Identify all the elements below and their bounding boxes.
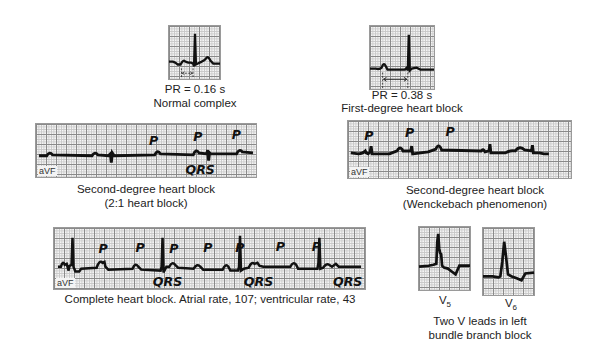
- ecg-trace: [483, 228, 534, 295]
- ecg-strip-second-degree-2to1: P P P QRS aVF: [35, 123, 257, 178]
- p-wave-marker: P: [276, 239, 286, 254]
- ecg-trace: [370, 26, 434, 89]
- caption-second-degree-2to1-line2: (2:1 heart block): [66, 196, 226, 210]
- lead-letter: V: [505, 297, 513, 309]
- ecg-strip-v6: [482, 227, 535, 296]
- lead-subscript: 5: [447, 300, 451, 309]
- ecg-trace: [169, 26, 220, 79]
- p-wave-marker: P: [445, 124, 455, 139]
- ecg-strip-v5: [418, 226, 471, 291]
- p-wave-marker: P: [405, 125, 415, 140]
- caption-lbbb-line1: Two V leads in left: [420, 314, 540, 328]
- ecg-trace: P P P P P P P QRS QRS QRS: [54, 228, 365, 289]
- p-wave-marker: P: [203, 240, 213, 255]
- pr-label-first-degree: PR = 0.38 s: [352, 88, 452, 102]
- pr-label-normal: PR = 0.16 s: [145, 82, 245, 96]
- ecg-trace: [419, 227, 470, 290]
- caption-wenckebach-line1: Second-degree heart block: [390, 183, 560, 197]
- p-wave-marker: P: [149, 133, 158, 148]
- p-wave-marker: P: [193, 129, 202, 144]
- lead-letter: V: [439, 294, 447, 306]
- caption-second-degree-2to1-line1: Second-degree heart block: [66, 182, 226, 196]
- caption-wenckebach-line2: (Wenckebach phenomenon): [390, 197, 560, 211]
- qrs-marker: QRS: [153, 274, 182, 289]
- p-wave-marker: P: [235, 240, 245, 255]
- caption-normal-complex: Normal complex: [135, 96, 255, 110]
- qrs-marker: QRS: [244, 274, 273, 289]
- p-wave-marker: P: [169, 241, 179, 256]
- lead-subscript: 6: [513, 303, 517, 312]
- lead-label-avf: aVF: [56, 278, 75, 288]
- lead-label-avf: aVF: [350, 167, 369, 177]
- caption-first-degree: First-degree heart block: [332, 101, 472, 115]
- caption-complete-heart-block: Complete heart block. Atrial rate, 107; …: [40, 292, 380, 306]
- p-wave-marker: P: [135, 240, 145, 255]
- ecg-strip-wenckebach: P P P aVF: [347, 120, 572, 179]
- qrs-marker: QRS: [186, 162, 215, 177]
- lead-label-v5: V5: [430, 293, 460, 312]
- lead-label-v6: V6: [496, 296, 526, 315]
- ecg-strip-normal-complex: [168, 25, 221, 80]
- p-wave-marker: P: [232, 127, 241, 142]
- ecg-trace: P P P: [348, 121, 571, 178]
- ecg-trace: P P P QRS: [36, 124, 256, 177]
- ecg-strip-complete-heart-block: P P P P P P P QRS QRS QRS aVF: [53, 227, 366, 290]
- p-wave-marker: P: [364, 128, 374, 143]
- p-wave-marker: P: [99, 241, 109, 256]
- p-wave-marker: P: [312, 239, 322, 254]
- ecg-strip-first-degree: [369, 25, 435, 90]
- qrs-marker: QRS: [333, 274, 362, 289]
- caption-lbbb-line2: bundle branch block: [420, 328, 540, 342]
- lead-label-avf: aVF: [38, 166, 57, 176]
